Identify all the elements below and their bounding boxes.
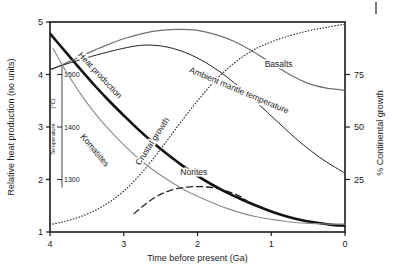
x-tick-label: 0 [342,239,347,249]
y-axis-title: Relative heat production (no units) [6,58,16,195]
y2-tick-label: 25 [354,175,364,185]
figure-container: 43210Time before present (Ga)12345Relati… [0,0,395,278]
y2-axis-title: % Continental growth [375,90,385,176]
y-tick-label: 1 [38,227,43,237]
chart-canvas: 43210Time before present (Ga)12345Relati… [0,0,395,278]
label-crustal-growth: Crustal growth [133,115,171,167]
curve-basalts [50,29,345,90]
temperature-tick-label: 1300 [64,176,80,183]
x-tick-label: 3 [121,239,126,249]
temperature-axis-title: Temperature [50,123,56,154]
label-norites: Norites [180,167,207,177]
label-komatiites: Komatiites [78,132,111,169]
temperature-axis-units: (°C) [50,98,56,108]
label-ambient-mantle-temperature: Ambient mantle temperature [188,65,291,116]
y-tick-label: 2 [38,175,43,185]
y-tick-label: 3 [38,122,43,132]
x-tick-label: 4 [47,239,52,249]
y2-tick-label: 50 [354,122,364,132]
x-axis-title: Time before present (Ga) [147,253,248,263]
plot-frame [50,22,345,232]
x-tick-label: 1 [269,239,274,249]
y2-tick-label: 75 [354,70,364,80]
label-basalts: Basalts [265,59,293,69]
y-tick-label: 4 [38,70,43,80]
temperature-tick-label: 1400 [64,124,80,131]
x-tick-label: 2 [195,239,200,249]
curve-crustal-growth [50,24,345,225]
y-tick-label: 5 [38,17,43,27]
